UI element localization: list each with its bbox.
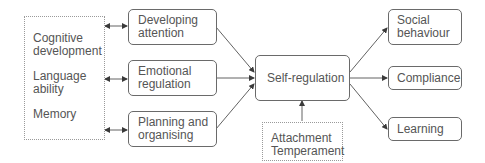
self-regulation-label: Self-regulation	[267, 72, 349, 85]
outcome-label-line2: behaviour	[397, 27, 461, 40]
outcome-learning: Learning	[388, 117, 462, 141]
moderators-box: Attachment Temperament	[262, 122, 343, 161]
component-developing-attention: Developing attention	[128, 9, 217, 45]
component-planning-organising: Planning and organising	[128, 111, 217, 147]
component-emotional-regulation: Emotional regulation	[128, 60, 217, 96]
influence-language-line2: ability	[33, 83, 104, 96]
influence-cognitive-line2: development	[33, 45, 104, 58]
influences-box: Cognitive development Language ability M…	[24, 16, 105, 140]
moderator-temperament: Temperament	[271, 145, 342, 158]
outcome-label: Compliance	[397, 72, 461, 85]
component-label-line2: attention	[138, 27, 216, 40]
self-regulation-box: Self-regulation	[255, 55, 350, 101]
influence-memory: Memory	[33, 108, 104, 121]
component-label-line2: regulation	[138, 78, 216, 91]
outcome-social-behaviour: Social behaviour	[388, 9, 462, 45]
outcome-label: Learning	[397, 123, 461, 136]
component-label-line2: organising	[138, 129, 216, 142]
outcome-compliance: Compliance	[388, 66, 462, 90]
